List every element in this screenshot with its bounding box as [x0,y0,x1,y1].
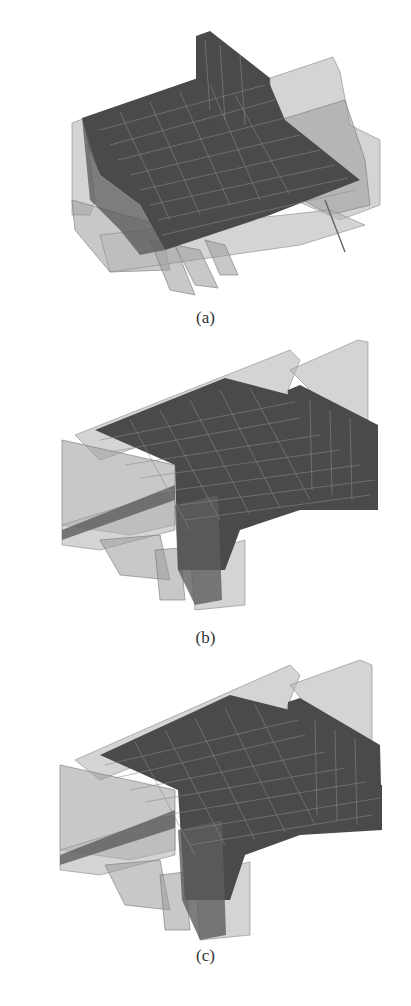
figure-panel-c: (c) [0,650,411,1006]
panel-label-a: (a) [0,308,411,328]
figure-panel-a: (a) [0,0,411,330]
mesh-model-image-b [0,330,411,630]
mesh-model-image-c [0,650,411,950]
figure-panel-b: (b) [0,330,411,650]
panel-label-c: (c) [0,946,411,966]
panel-label-b: (b) [0,628,411,648]
mesh-model-image-a [0,0,411,310]
